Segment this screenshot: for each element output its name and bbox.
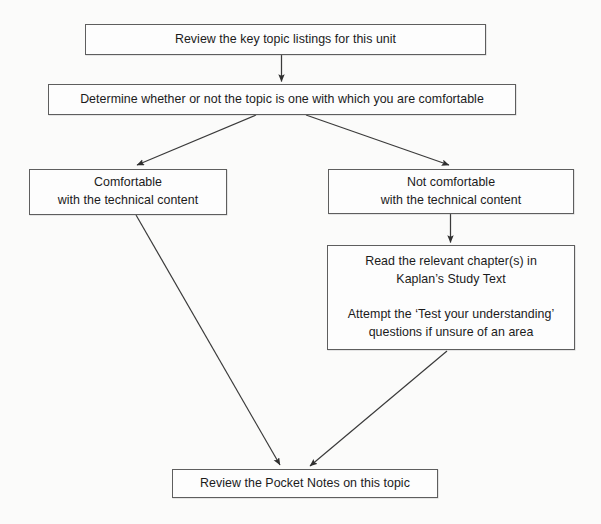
edge-determine-to-not-comfortable: [306, 115, 449, 165]
node-not-comfortable: Not comfortable with the technical conte…: [328, 169, 574, 214]
node-determine-comfort: Determine whether or not the topic is on…: [48, 84, 516, 115]
node-review-key-topics-label: Review the key topic listings for this u…: [86, 31, 485, 49]
node-review-pocket-notes: Review the Pocket Notes on this topic: [172, 469, 438, 498]
flowchart-canvas: Review the key topic listings for this u…: [0, 0, 601, 524]
edge-determine-to-comfortable: [137, 115, 256, 165]
edge-comfortable-to-pocket: [136, 215, 280, 465]
edge-read-to-pocket: [310, 351, 447, 466]
node-determine-comfort-label: Determine whether or not the topic is on…: [49, 91, 515, 109]
node-comfortable-label: Comfortable with the technical content: [30, 174, 226, 209]
node-review-pocket-notes-label: Review the Pocket Notes on this topic: [173, 475, 437, 493]
node-review-key-topics: Review the key topic listings for this u…: [85, 24, 486, 55]
node-read-chapters: Read the relevant chapter(s) in Kaplan’s…: [327, 245, 575, 350]
node-comfortable: Comfortable with the technical content: [29, 169, 227, 215]
node-not-comfortable-label: Not comfortable with the technical conte…: [329, 174, 573, 209]
node-read-chapters-label: Read the relevant chapter(s) in Kaplan’s…: [328, 253, 574, 341]
